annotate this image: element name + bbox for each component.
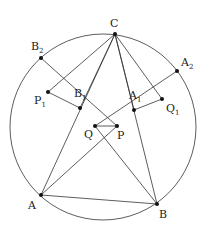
- point-P1: [46, 90, 50, 94]
- label-A2: A2: [180, 56, 193, 71]
- label-P1: P1: [34, 94, 46, 109]
- label-Q: Q: [84, 128, 93, 141]
- segment-C-Q1: [115, 34, 162, 99]
- label-A: A: [27, 199, 37, 212]
- point-C: [113, 32, 117, 36]
- point-A1: [132, 108, 136, 112]
- point-P: [115, 124, 119, 128]
- label-A1: A1: [128, 89, 141, 104]
- point-B2: [39, 56, 43, 60]
- segment-A-P: [41, 126, 117, 195]
- point-B1: [78, 106, 82, 110]
- label-P: P: [117, 129, 125, 142]
- circumcircle: [10, 34, 196, 220]
- point-A: [39, 193, 43, 197]
- label-B1: B1: [74, 87, 87, 102]
- segment-A-B: [41, 195, 157, 204]
- label-C: C: [110, 17, 118, 30]
- geometry-diagram: CB2A2P1B1A1Q1QPAB: [0, 0, 206, 230]
- label-B: B: [159, 208, 167, 221]
- diagram-canvas: CB2A2P1B1A1Q1QPAB: [0, 0, 206, 230]
- point-Q1: [160, 97, 164, 101]
- point-Q: [93, 124, 97, 128]
- point-B: [155, 202, 159, 206]
- point-A2: [175, 69, 179, 73]
- label-Q1: Q1: [166, 102, 180, 117]
- label-B2: B2: [31, 40, 44, 55]
- segment-C-P1: [48, 34, 115, 92]
